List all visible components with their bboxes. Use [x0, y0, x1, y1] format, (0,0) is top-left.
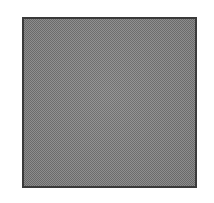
- swatch-shading: [24, 19, 195, 186]
- swatch-label: Gray dithered square: [24, 19, 25, 20]
- canvas: Gray dithered square: [0, 0, 214, 203]
- gray-dithered-square: Gray dithered square: [22, 17, 197, 188]
